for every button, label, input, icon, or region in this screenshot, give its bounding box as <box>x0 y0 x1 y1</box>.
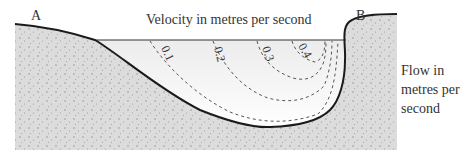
flow-side-label: Flow in metres per second <box>401 61 465 118</box>
bank-label-a: A <box>31 8 41 24</box>
diagram-title: Velocity in metres per second <box>146 12 312 28</box>
bank-label-b: B <box>356 8 365 24</box>
